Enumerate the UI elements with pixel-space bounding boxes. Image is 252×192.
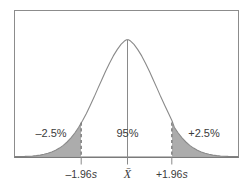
central-percent-label: 95% <box>116 127 138 139</box>
upper-bound-axis-unit: s <box>182 168 188 180</box>
upper-bound-axis-value: +1.96 <box>156 168 183 180</box>
lower-bound-axis-unit: s <box>92 168 98 180</box>
lower-bound-axis-value: –1.96 <box>65 168 91 180</box>
distribution-chart: –2.5% 95% +2.5% –1.96s X̄ +1.96s <box>0 0 252 192</box>
right-tail-percent-label: +2.5% <box>188 127 220 139</box>
upper-bound-axis-label: +1.96s <box>156 168 189 180</box>
left-tail-percent-label: –2.5% <box>35 127 66 139</box>
normal-distribution-figure: –2.5% 95% +2.5% –1.96s X̄ +1.96s <box>0 0 252 192</box>
mean-axis-label: X̄ <box>123 167 132 181</box>
lower-bound-axis-label: –1.96s <box>65 168 97 180</box>
